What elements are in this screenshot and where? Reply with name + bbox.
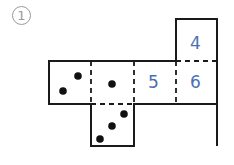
dot bbox=[96, 135, 104, 143]
face-number-4: 4 bbox=[190, 33, 201, 53]
dot bbox=[74, 72, 82, 80]
dot bbox=[108, 122, 116, 130]
dot bbox=[120, 110, 128, 118]
dot bbox=[108, 80, 116, 88]
face-number-5: 5 bbox=[148, 72, 159, 92]
face-number-6: 6 bbox=[190, 72, 201, 92]
dot bbox=[59, 87, 67, 95]
